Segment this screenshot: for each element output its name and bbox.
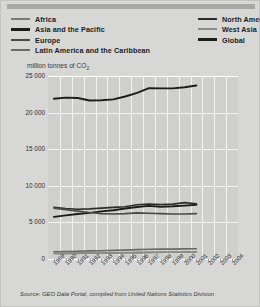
x-tick-label: 1992 — [88, 253, 102, 267]
x-tick-label: 1993 — [100, 253, 114, 267]
x-tick-label: 1990 — [64, 253, 78, 267]
x-tick-label: 2004 — [231, 253, 245, 267]
x-tick-label: 1997 — [147, 253, 161, 267]
x-tick-label: 1994 — [112, 253, 126, 267]
x-tick-label: 2002 — [207, 253, 221, 267]
x-tick-label: 1989 — [52, 253, 66, 267]
x-tick-label: 1996 — [136, 253, 150, 267]
x-tick-label: 1995 — [124, 253, 138, 267]
x-tick-label: 2000 — [183, 253, 197, 267]
x-tick-label: 1991 — [76, 253, 90, 267]
source-note: Source: GEO Data Portal, compiled from U… — [20, 291, 214, 297]
x-tick-label: 2003 — [219, 253, 233, 267]
x-tick-label: 2001 — [195, 253, 209, 267]
x-axis-labels: 1989199019911992199319941995199619971998… — [1, 1, 260, 307]
x-tick-label: 1998 — [159, 253, 173, 267]
x-tick-label: 1999 — [171, 253, 185, 267]
chart-figure: Africa Asia and the Pacific Europe Latin… — [0, 0, 260, 307]
